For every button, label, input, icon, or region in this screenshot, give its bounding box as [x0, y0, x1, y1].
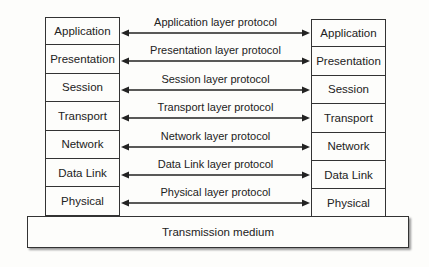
- right-layer-data-link: Data Link: [311, 161, 386, 189]
- double-arrow-icon: [121, 57, 310, 65]
- protocol-transport: Transport layer protocol: [121, 100, 310, 128]
- right-layer-application: Application: [311, 19, 386, 47]
- protocol-session: Session layer protocol: [121, 72, 310, 100]
- left-layer-presentation: Presentation: [45, 45, 120, 73]
- protocol-label: Transport layer protocol: [121, 101, 310, 113]
- protocol-data-link: Data Link layer protocol: [121, 157, 310, 185]
- double-arrow-icon: [121, 86, 310, 94]
- protocol-label: Application layer protocol: [121, 16, 310, 28]
- left-layer-stack: Application Presentation Session Transpo…: [45, 17, 120, 216]
- protocol-label: Physical layer protocol: [121, 186, 310, 198]
- protocol-label: Session layer protocol: [121, 73, 310, 85]
- double-arrow-icon: [121, 171, 310, 179]
- double-arrow-icon: [121, 199, 310, 207]
- protocol-application: Application layer protocol: [121, 15, 310, 43]
- left-layer-network: Network: [45, 131, 120, 159]
- double-arrow-icon: [121, 143, 310, 151]
- protocol-presentation: Presentation layer protocol: [121, 43, 310, 71]
- right-layer-presentation: Presentation: [311, 47, 386, 75]
- left-layer-transport: Transport: [45, 102, 120, 130]
- double-arrow-icon: [121, 114, 310, 122]
- right-layer-network: Network: [311, 133, 386, 161]
- left-layer-data-link: Data Link: [45, 159, 120, 187]
- protocol-physical: Physical layer protocol: [121, 185, 310, 213]
- right-layer-session: Session: [311, 76, 386, 104]
- left-layer-application: Application: [45, 17, 120, 45]
- protocol-network: Network layer protocol: [121, 129, 310, 157]
- right-layer-transport: Transport: [311, 104, 386, 132]
- double-arrow-icon: [121, 29, 310, 37]
- transmission-medium: Transmission medium: [27, 216, 409, 248]
- protocol-label: Presentation layer protocol: [121, 44, 310, 56]
- left-layer-physical: Physical: [45, 187, 120, 215]
- right-layer-stack: Application Presentation Session Transpo…: [311, 19, 386, 218]
- protocol-label: Data Link layer protocol: [121, 158, 310, 170]
- right-layer-physical: Physical: [311, 189, 386, 217]
- left-layer-session: Session: [45, 74, 120, 102]
- protocol-label: Network layer protocol: [121, 130, 310, 142]
